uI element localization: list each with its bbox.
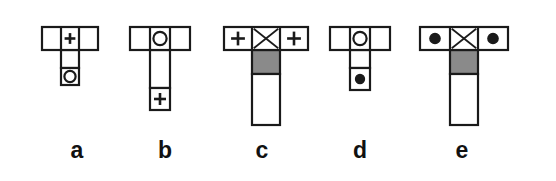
dot-filled-icon [488, 33, 498, 43]
figure-e-caption: e [442, 139, 482, 162]
figure-panel: abcde [0, 0, 556, 181]
figure-e-stem-cell-1 [450, 74, 478, 125]
figure-e-shape [420, 27, 508, 125]
figure-e-stem-cell-0 [450, 50, 478, 74]
dot-filled-icon [430, 33, 440, 43]
